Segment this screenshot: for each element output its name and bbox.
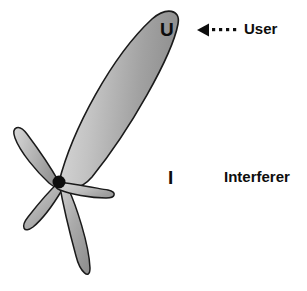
origin-dot — [53, 176, 66, 189]
interferer-marker-label: I — [168, 168, 173, 187]
user-marker-label: U — [160, 20, 174, 39]
side-lobe-upper-left — [14, 127, 60, 187]
user-arrow-icon — [196, 22, 242, 38]
radiation-pattern-graphic — [0, 0, 307, 291]
user-callout-label: User — [244, 21, 277, 36]
antenna-pattern-diagram: U I User Interferer — [0, 0, 307, 291]
interferer-callout-label: Interferer — [224, 169, 290, 184]
